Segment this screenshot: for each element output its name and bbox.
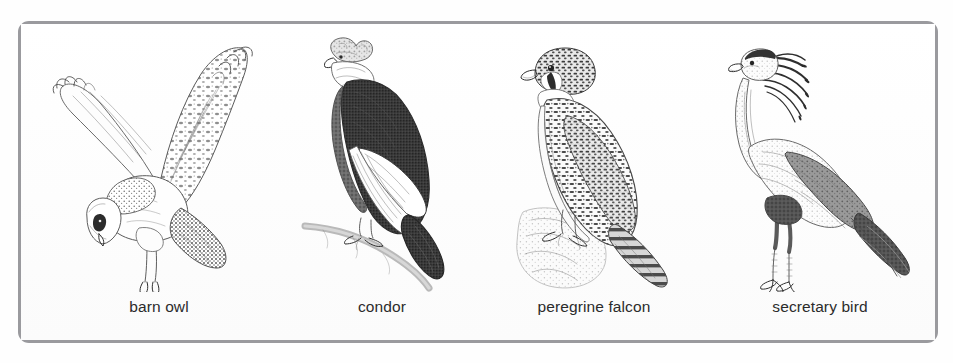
bird-panel-condor: condor	[283, 30, 481, 340]
bird-panel-secretary-bird: secretary bird	[711, 30, 929, 340]
condor-illustration	[283, 30, 481, 292]
figure-frame: barn owl	[18, 21, 938, 343]
bird-label-barn-owl: barn owl	[43, 298, 275, 316]
barn-owl-illustration	[43, 30, 275, 292]
secretary-bird-illustration	[711, 30, 929, 292]
peregrine-falcon-illustration	[489, 30, 699, 292]
bird-figure: barn owl	[0, 0, 953, 363]
bird-panel-barn-owl: barn owl	[43, 30, 275, 340]
bird-label-peregrine-falcon: peregrine falcon	[489, 298, 699, 316]
bird-label-secretary-bird: secretary bird	[711, 298, 929, 316]
bird-label-condor: condor	[283, 298, 481, 316]
bird-panel-peregrine-falcon: peregrine falcon	[489, 30, 699, 340]
